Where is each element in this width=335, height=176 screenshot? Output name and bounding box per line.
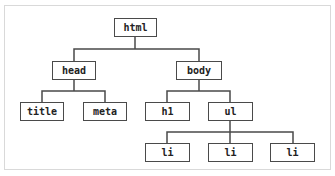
- node-title: title: [20, 102, 64, 121]
- node-h1: h1: [145, 102, 190, 121]
- node-html: html: [114, 18, 157, 37]
- node-li-1: li: [145, 143, 190, 162]
- node-head: head: [52, 61, 96, 80]
- node-ul: ul: [208, 102, 253, 121]
- node-li-2: li: [208, 143, 253, 162]
- node-li-3: li: [270, 143, 315, 162]
- node-body: body: [176, 61, 222, 80]
- node-meta: meta: [83, 102, 127, 121]
